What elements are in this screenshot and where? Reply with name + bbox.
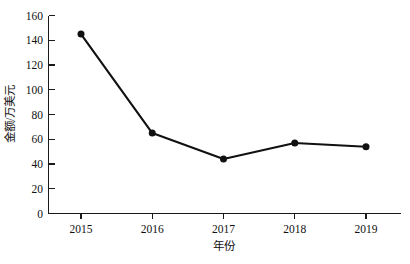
x-tick-label: 2015 bbox=[70, 223, 93, 235]
y-tick-label: 100 bbox=[26, 84, 44, 96]
data-point bbox=[149, 130, 156, 137]
y-tick-label: 120 bbox=[26, 59, 44, 71]
y-tick-label: 40 bbox=[32, 158, 44, 170]
series-markers bbox=[78, 31, 370, 163]
x-axis-ticks bbox=[81, 214, 366, 220]
y-tick-label: 160 bbox=[26, 10, 44, 22]
y-tick-label: 0 bbox=[37, 208, 43, 220]
chart-axes bbox=[49, 16, 401, 214]
x-tick-label: 2018 bbox=[283, 223, 306, 235]
data-point bbox=[220, 156, 227, 163]
line-chart: 0 20 40 60 80 100 120 140 160 2015 2016 … bbox=[0, 0, 410, 264]
x-axis-title: 年份 bbox=[213, 239, 236, 252]
data-point bbox=[363, 143, 370, 150]
data-point bbox=[291, 139, 298, 146]
x-tick-label: 2019 bbox=[355, 223, 378, 235]
series-amount bbox=[78, 31, 370, 163]
chart-canvas: 0 20 40 60 80 100 120 140 160 2015 2016 … bbox=[0, 0, 410, 264]
y-axis-ticks bbox=[49, 16, 55, 214]
y-axis-title: 金额/万美元 bbox=[3, 84, 16, 143]
x-axis-tick-labels: 2015 2016 2017 2018 2019 bbox=[70, 223, 378, 235]
data-point bbox=[78, 31, 85, 38]
y-axis-tick-labels: 0 20 40 60 80 100 120 140 160 bbox=[26, 10, 44, 220]
y-tick-label: 140 bbox=[26, 34, 44, 46]
x-tick-label: 2016 bbox=[141, 223, 164, 235]
y-tick-label: 60 bbox=[32, 133, 44, 145]
x-tick-label: 2017 bbox=[212, 223, 235, 235]
y-tick-label: 80 bbox=[32, 109, 44, 121]
y-tick-label: 20 bbox=[32, 183, 44, 195]
series-line bbox=[81, 34, 366, 159]
axis-spines bbox=[49, 16, 401, 214]
